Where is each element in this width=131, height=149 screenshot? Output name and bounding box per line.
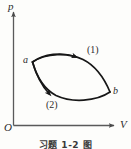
figure-container: p V O a b (1) (2) 习题 1-2 图 (0, 0, 131, 149)
path-label-1: (1) (87, 45, 99, 55)
pv-diagram (0, 0, 131, 149)
point-label-b: b (113, 86, 118, 96)
x-axis-label: V (120, 119, 127, 130)
point-label-a: a (23, 55, 28, 65)
path-label-2: (2) (46, 100, 58, 110)
origin-label: O (4, 122, 12, 133)
figure-caption: 习题 1-2 图 (0, 138, 131, 149)
curve-2-lower-path (33, 62, 111, 100)
y-axis-label: p (8, 1, 14, 12)
